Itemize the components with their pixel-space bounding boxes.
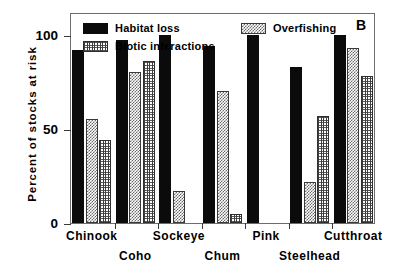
- bar-chum-overfishing: [217, 91, 229, 223]
- panel-letter: B: [356, 18, 366, 32]
- bar-coho-habitat-loss: [116, 40, 128, 223]
- bar-chum-biotic-interactions: [230, 214, 242, 223]
- y-tick-50: [64, 130, 71, 131]
- x-label-pink: Pink: [252, 230, 279, 242]
- x-label-steelhead: Steelhead: [279, 250, 340, 262]
- legend-swatch-overfishing: [241, 23, 266, 34]
- bar-chinook-overfishing: [86, 119, 98, 223]
- bar-coho-biotic-interactions: [143, 61, 155, 223]
- x-tick-4: [245, 223, 246, 229]
- bar-steelhead-habitat-loss: [290, 67, 302, 223]
- bar-chart-figure: Percent of stocks at risk 050100 B Habit…: [0, 0, 397, 274]
- bar-steelhead-overfishing: [304, 182, 316, 223]
- legend-swatch-biotic-interactions: [83, 41, 108, 52]
- x-label-coho: Coho: [119, 250, 152, 262]
- legend-swatch-habitat-loss: [83, 23, 108, 34]
- x-label-chinook: Chinook: [66, 230, 118, 242]
- legend-label-overfishing: Overfishing: [273, 23, 336, 34]
- bar-chum-habitat-loss: [203, 46, 215, 223]
- bar-pink-habitat-loss: [247, 35, 259, 223]
- legend-label-biotic-interactions: Biotic interactions: [115, 41, 215, 52]
- bar-steelhead-biotic-interactions: [317, 116, 329, 223]
- x-label-chum: Chum: [205, 250, 241, 262]
- legend-label-habitat-loss: Habitat loss: [115, 23, 180, 34]
- legend-item-overfishing: Overfishing: [241, 23, 336, 34]
- x-tick-5: [289, 223, 290, 229]
- plot-area: B Habitat lossOverfishingBiotic interact…: [70, 13, 375, 224]
- y-tick-label-0: 0: [0, 217, 58, 231]
- bar-coho-overfishing: [129, 72, 141, 223]
- bar-cutthroat-overfishing: [347, 48, 359, 223]
- y-tick-100: [64, 36, 71, 37]
- legend-item-habitat-loss: Habitat loss: [83, 23, 180, 34]
- bar-cutthroat-biotic-interactions: [361, 76, 373, 223]
- x-label-cutthroat: Cutthroat: [324, 230, 383, 242]
- y-tick-label-100: 100: [0, 29, 58, 43]
- legend-item-biotic-interactions: Biotic interactions: [83, 41, 215, 52]
- bar-chinook-biotic-interactions: [99, 140, 111, 223]
- y-tick-label-50: 50: [0, 123, 58, 137]
- bar-sockeye-habitat-loss: [159, 35, 171, 223]
- bar-cutthroat-habitat-loss: [334, 35, 346, 223]
- bar-chinook-habitat-loss: [72, 50, 84, 223]
- x-label-sockeye: Sockeye: [153, 230, 205, 242]
- y-tick-0: [64, 224, 71, 225]
- bar-sockeye-overfishing: [173, 191, 185, 223]
